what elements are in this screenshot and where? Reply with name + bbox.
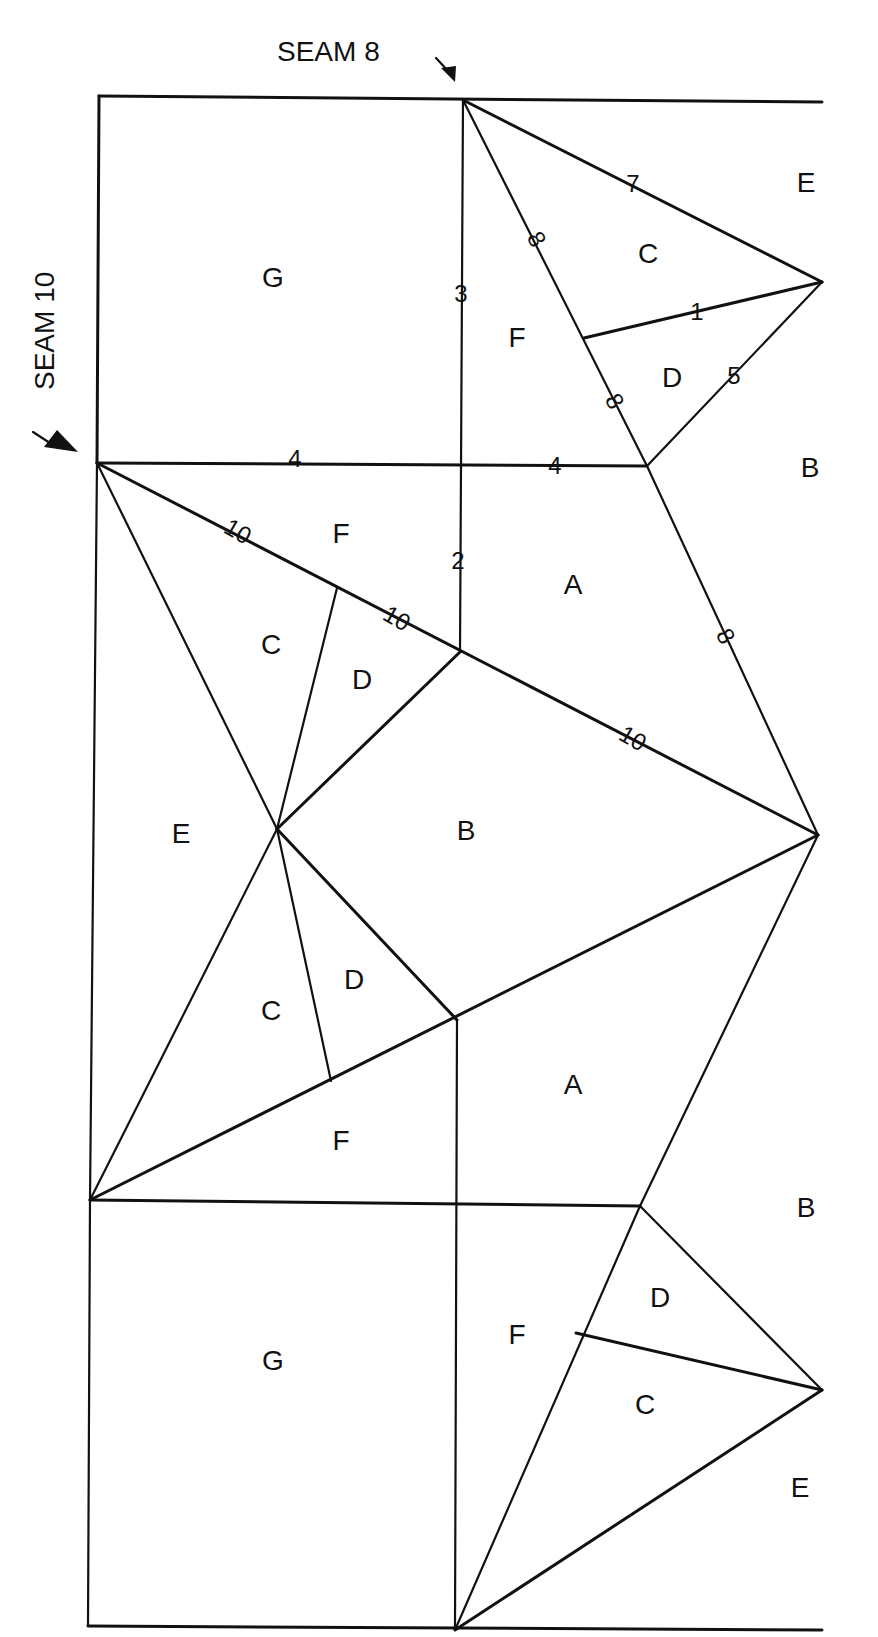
edge-mark: 7 <box>626 170 639 197</box>
edge-mark: 3 <box>454 280 467 307</box>
center-vertical-line <box>455 100 463 1630</box>
region-label: A <box>564 1069 583 1100</box>
region-label: G <box>262 262 284 293</box>
region-label: C <box>638 238 658 269</box>
edge-mark: 5 <box>727 362 740 389</box>
region-labels: G F C D E B F A C D E B D C A F B D F G … <box>172 167 820 1503</box>
region-label: B <box>797 1192 816 1223</box>
region-label: F <box>508 1319 525 1350</box>
region-label: F <box>508 322 525 353</box>
edge-mark: 8 <box>711 623 741 648</box>
edge-mark: 2 <box>451 547 464 574</box>
middle-lines <box>90 463 818 1206</box>
edge-marks: 7 8 3 1 5 8 4 4 10 2 10 8 10 <box>220 170 741 756</box>
edge-mark: 10 <box>379 600 416 637</box>
region-label: B <box>457 815 476 846</box>
region-label: D <box>344 964 364 995</box>
region-label: B <box>801 452 820 483</box>
seam-10-label: SEAM 10 <box>29 272 60 390</box>
edge-mark: 1 <box>690 298 703 325</box>
region-label: E <box>791 1472 810 1503</box>
region-label: E <box>172 818 191 849</box>
edge-mark: 10 <box>615 720 652 757</box>
top-fan-lines <box>463 100 822 466</box>
region-label: A <box>564 569 583 600</box>
quilt-block-diagram: SEAM 8 SEAM 10 G F C D E B F A C D E B D… <box>0 0 878 1637</box>
region-label: C <box>261 995 281 1026</box>
seam-8-label: SEAM 8 <box>277 36 380 67</box>
region-label: C <box>635 1389 655 1420</box>
region-label: D <box>662 362 682 393</box>
region-label: F <box>332 1125 349 1156</box>
region-label: F <box>332 518 349 549</box>
seam-10-arrow-icon <box>33 430 78 452</box>
region-label: D <box>650 1282 670 1313</box>
region-label: G <box>262 1345 284 1376</box>
seam-8-arrow-icon <box>436 58 456 82</box>
region-label: D <box>352 664 372 695</box>
edge-mark: 8 <box>600 388 630 413</box>
edge-mark: 4 <box>288 445 301 472</box>
region-label: C <box>261 629 281 660</box>
region-label: E <box>797 167 816 198</box>
edge-mark: 4 <box>548 452 561 479</box>
